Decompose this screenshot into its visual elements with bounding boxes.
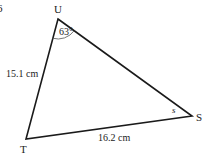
side-label-ut: 15.1 cm <box>6 68 38 79</box>
question-number-fragment: 6 <box>0 2 3 14</box>
vertex-label-t: T <box>20 143 27 155</box>
vertex-label-u: U <box>54 3 62 15</box>
side-label-ts: 16.2 cm <box>98 132 130 143</box>
triangle-ust <box>26 19 192 139</box>
vertex-label-s: S <box>196 111 202 123</box>
angle-label-u: 63° <box>59 26 73 37</box>
triangle-diagram: 6 U S T 63° s 15.1 cm 16.2 cm <box>0 0 206 155</box>
angle-label-s: s <box>172 105 176 115</box>
